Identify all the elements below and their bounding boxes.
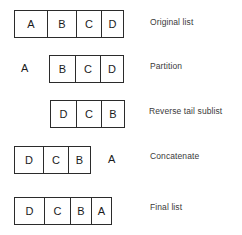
stage-label-original-list: Original list: [150, 18, 193, 27]
list-cell: C: [44, 147, 69, 173]
list-cell: D: [102, 11, 123, 37]
list-cell: B: [69, 147, 90, 173]
list-reversal-diagram: A B C D Original list A B C D Partition …: [0, 0, 242, 235]
cell-group-partition: B C D: [49, 55, 124, 83]
list-cell: D: [101, 56, 123, 82]
stage-label-concatenate: Concatenate: [150, 152, 199, 161]
cell-group-final-list: D C B A: [14, 197, 112, 225]
cell-group-concatenate: D C B: [14, 146, 91, 174]
list-cell: C: [76, 56, 101, 82]
cell-group-original-list: A B C D: [14, 10, 124, 38]
list-cell: B: [71, 198, 92, 224]
detached-element-a: A: [108, 154, 115, 165]
stage-label-reverse-tail-sublist: Reverse tail sublist: [149, 107, 222, 116]
list-cell: D: [15, 147, 44, 173]
list-cell: C: [77, 11, 102, 37]
list-cell: D: [51, 101, 77, 127]
cell-group-reverse-tail-sublist: D C B: [50, 100, 125, 128]
detached-element-a: A: [21, 63, 28, 74]
list-cell: B: [102, 101, 124, 127]
list-cell: C: [45, 198, 71, 224]
stage-label-final-list: Final list: [150, 203, 182, 212]
list-cell: B: [50, 56, 76, 82]
list-cell: A: [92, 198, 111, 224]
list-cell: D: [15, 198, 45, 224]
list-cell: C: [77, 101, 102, 127]
list-cell: A: [15, 11, 48, 37]
list-cell: B: [48, 11, 77, 37]
stage-label-partition: Partition: [150, 62, 182, 71]
